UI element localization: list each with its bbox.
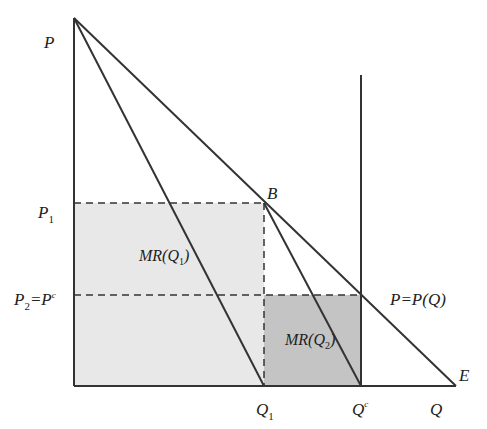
q1-label: Q1 <box>256 400 274 422</box>
p1-label: P1 <box>37 203 54 225</box>
y-axis-label: P <box>43 33 54 52</box>
point-e-label: E <box>458 366 470 385</box>
monopoly-diagram: P P1 P2=Pc B MR(Q1) MR(Q2) P=P(Q) E Q1 Q… <box>0 0 487 429</box>
revenue-area-lower <box>74 295 264 386</box>
diagram-canvas: P P1 P2=Pc B MR(Q1) MR(Q2) P=P(Q) E Q1 Q… <box>0 0 487 429</box>
demand-label: P=P(Q) <box>389 290 446 309</box>
qc-label: Qc <box>352 399 368 419</box>
x-axis-label: Q <box>430 400 442 419</box>
p2-label: P2=Pc <box>13 290 56 312</box>
point-b-label: B <box>267 184 278 203</box>
